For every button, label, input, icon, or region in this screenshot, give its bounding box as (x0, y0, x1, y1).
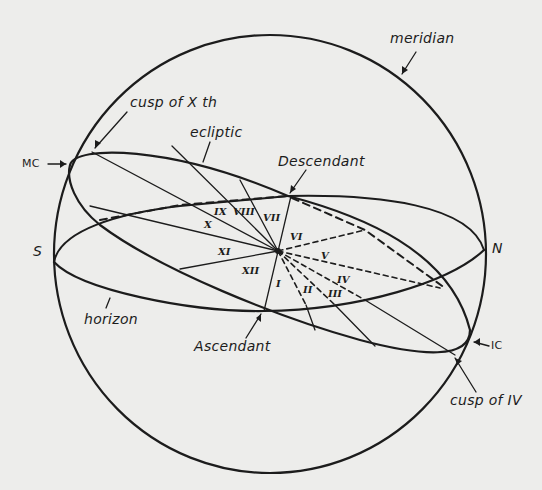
house-vii: VII (263, 212, 280, 223)
n-label: N (492, 240, 503, 256)
house-i: I (276, 278, 281, 289)
house-xii: XII (242, 265, 259, 276)
meridian-circle (54, 35, 486, 473)
meridian-label: meridian (390, 30, 455, 46)
cusp-iv-line (365, 300, 455, 355)
house-viii: VIII (233, 206, 255, 217)
mc-label: MC (22, 157, 40, 170)
horizon-label: horizon (84, 311, 138, 327)
house-ix: IX (214, 206, 226, 217)
ic-label: IC (491, 339, 503, 352)
house-iii: III (328, 288, 342, 299)
ecliptic-arrow (203, 142, 210, 162)
ascendant-label: Ascendant (194, 338, 271, 354)
cusp-x-label: cusp of X th (130, 94, 217, 110)
descendant-to-n-hidden (292, 198, 445, 288)
house-x: X (204, 219, 212, 230)
s-label: S (33, 243, 42, 259)
cusp-ii-hidden (278, 251, 306, 305)
ecliptic-label: ecliptic (190, 124, 242, 140)
celestial-sphere-diagram (0, 0, 542, 490)
horizon-front (54, 250, 484, 311)
cusp-iv-label: cusp of IV (450, 392, 522, 408)
cusp-iii-line (335, 305, 375, 346)
cusp-v-hidden (278, 251, 440, 288)
horizon-arrow (106, 298, 110, 308)
descendant-label: Descendant (278, 153, 365, 169)
house-v: V (321, 250, 329, 261)
house-xi: XI (218, 246, 230, 257)
house-vi: VI (290, 231, 302, 242)
house-ii: II (303, 284, 312, 295)
cusp-x-line (92, 152, 278, 251)
house-iv: IV (337, 274, 349, 285)
